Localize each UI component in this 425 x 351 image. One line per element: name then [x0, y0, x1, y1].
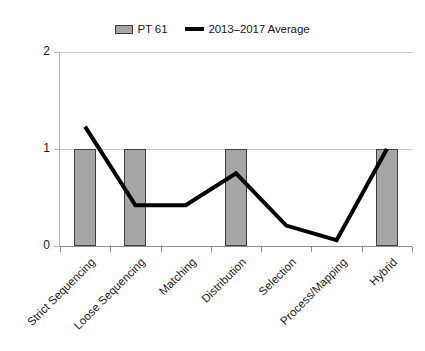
- x-axis-line: [59, 246, 412, 247]
- y-axis-tick-label: 2: [34, 44, 50, 58]
- legend-label-line-series: 2013–2017 Average: [208, 23, 309, 35]
- chart-container: PT 61 2013–2017 Average 012 Strict Seque…: [0, 0, 425, 351]
- x-axis-tick-mark: [261, 247, 262, 252]
- x-axis-category-label: Strict Sequencing: [0, 256, 97, 351]
- line-series-layer: [60, 52, 412, 246]
- x-axis-tick-mark: [211, 247, 212, 252]
- line-swatch-icon: [185, 27, 204, 31]
- x-axis-tick-mark: [412, 247, 413, 252]
- bar-swatch-icon: [115, 25, 133, 34]
- x-axis-tick-mark: [161, 247, 162, 252]
- x-axis-tick-mark: [110, 247, 111, 252]
- legend-label-bar-series: PT 61: [137, 23, 167, 35]
- x-axis-tick-mark: [60, 247, 61, 252]
- average-line-path: [85, 127, 387, 241]
- legend-entry-bar-series: PT 61: [115, 23, 167, 35]
- y-axis-tick-mark: [54, 246, 59, 247]
- y-axis-tick-mark: [54, 149, 59, 150]
- x-axis-tick-mark: [362, 247, 363, 252]
- y-axis-tick-label: 1: [34, 141, 50, 155]
- x-axis-tick-mark: [311, 247, 312, 252]
- y-axis-tick-label: 0: [34, 238, 50, 252]
- chart-legend: PT 61 2013–2017 Average: [0, 20, 425, 38]
- legend-entry-line-series: 2013–2017 Average: [185, 23, 309, 35]
- y-axis-tick-mark: [54, 52, 59, 53]
